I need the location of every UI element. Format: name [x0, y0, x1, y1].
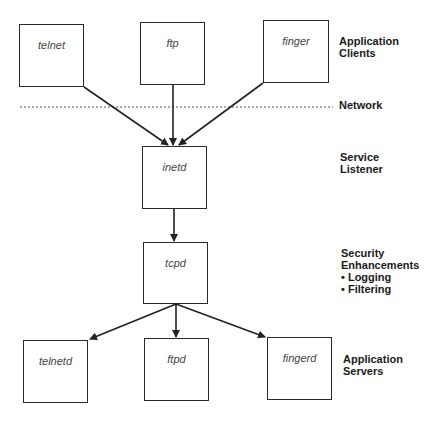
node-label: ftp — [141, 37, 204, 49]
node-inetd: inetd — [142, 146, 207, 209]
layer-label-clients: Application Clients — [339, 35, 399, 59]
layer-label-servers: Application Servers — [343, 353, 403, 377]
security-item-filtering: • Filtering — [341, 283, 419, 295]
layer-label-line: Clients — [339, 47, 399, 59]
layer-label-listener: Service Listener — [340, 151, 383, 175]
node-label: tcpd — [144, 257, 207, 269]
node-tcpd: tcpd — [143, 242, 208, 304]
edge-telnet-inetd — [84, 87, 168, 145]
node-label: telnetd — [24, 355, 87, 367]
node-label: finger — [264, 35, 328, 47]
edge-tcpd-telnetd — [90, 304, 176, 339]
node-ftp: ftp — [140, 22, 205, 85]
layer-label-line: Application — [343, 353, 403, 365]
node-fingerd: fingerd — [267, 337, 332, 400]
node-label: fingerd — [268, 352, 331, 364]
node-telnet: telnet — [19, 24, 84, 87]
security-item-logging: • Logging — [341, 271, 419, 283]
node-label: inetd — [143, 161, 206, 173]
edge-tcpd-fingerd — [176, 304, 265, 337]
layer-label-network: Network — [339, 99, 382, 111]
layer-label-line: Service — [340, 151, 383, 163]
layer-label-line: Servers — [343, 365, 403, 377]
node-ftpd: ftpd — [144, 338, 209, 401]
layer-label-line: Security — [341, 247, 419, 259]
layer-label-security: Security Enhancements • Logging • Filter… — [341, 247, 419, 295]
layer-label-line: Listener — [340, 163, 383, 175]
layer-label-line: Enhancements — [341, 259, 419, 271]
edge-finger-inetd — [179, 83, 263, 145]
node-label: telnet — [20, 39, 83, 51]
node-finger: finger — [263, 20, 329, 83]
layer-label-line: Network — [339, 99, 382, 111]
node-telnetd: telnetd — [23, 340, 88, 403]
node-label: ftpd — [145, 353, 208, 365]
layer-label-line: Application — [339, 35, 399, 47]
